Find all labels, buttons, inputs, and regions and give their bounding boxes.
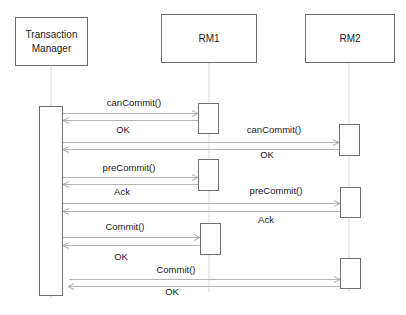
reply-label-ok-rm2: OK (260, 149, 274, 160)
msg-label-commit-rm2: Commit() (156, 264, 195, 275)
rm1-activation-cancommit (199, 104, 219, 134)
msg-label-cancommit-rm1: canCommit() (107, 97, 161, 108)
rm2-activation-precommit (341, 188, 361, 218)
message-commit-rm2: Commit() OK (68, 264, 340, 297)
message-precommit-rm1: preCommit() Ack (63, 162, 198, 197)
reply-label-ack-rm2: Ack (258, 214, 274, 225)
rm2-activation-cancommit (340, 125, 360, 156)
rm1-label: RM1 (198, 33, 220, 44)
participant-transaction-manager: Transaction Manager (16, 18, 88, 66)
reply-label-ok-commit-rm2: OK (165, 286, 179, 297)
rm1-activation-precommit (199, 160, 219, 191)
msg-label-precommit-rm1: preCommit() (103, 162, 156, 173)
message-cancommit-rm1: canCommit() OK (63, 97, 198, 135)
msg-label-precommit-rm2: preCommit() (250, 185, 303, 196)
message-commit-rm1: Commit() OK (63, 221, 200, 262)
msg-label-cancommit-rm2: canCommit() (247, 124, 301, 135)
reply-label-ok-commit-rm1: OK (114, 251, 128, 262)
participant-rm1: RM1 (162, 15, 257, 63)
tm-label-line1: Transaction (26, 29, 78, 40)
tm-box (16, 18, 88, 66)
msg-label-commit-rm1: Commit() (105, 221, 144, 232)
participant-rm2: RM2 (306, 15, 395, 63)
tm-label-line2: Manager (32, 43, 72, 54)
rm2-activation-commit (341, 259, 361, 289)
tm-activation (40, 107, 63, 296)
rm1-activation-commit (201, 224, 221, 255)
rm2-label: RM2 (339, 33, 361, 44)
reply-label-ack-rm1: Ack (114, 186, 130, 197)
reply-label-ok-rm1: OK (116, 124, 130, 135)
sequence-diagram: Transaction Manager RM1 RM2 canCommit() … (0, 0, 406, 315)
